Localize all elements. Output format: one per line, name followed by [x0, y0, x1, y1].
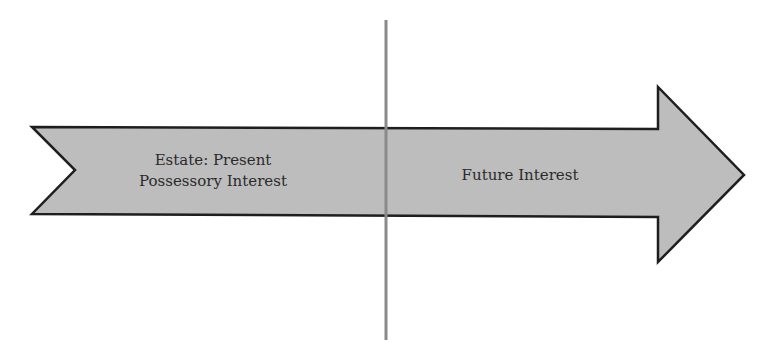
- estate-label-line2: Possessory Interest: [118, 171, 308, 192]
- future-interest-label: Future Interest: [420, 165, 620, 186]
- timeline-diagram: Estate: Present Possessory Interest Futu…: [0, 0, 775, 357]
- arrow-graphic: [0, 0, 775, 357]
- estate-label: Estate: Present Possessory Interest: [118, 150, 308, 192]
- estate-label-line1: Estate: Present: [118, 150, 308, 171]
